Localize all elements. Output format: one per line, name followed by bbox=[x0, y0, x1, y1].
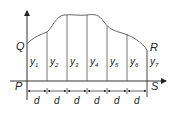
svg-text:y6: y6 bbox=[129, 56, 139, 68]
label-p: P bbox=[15, 80, 23, 92]
svg-text:d: d bbox=[134, 95, 140, 106]
label-r: R bbox=[150, 41, 158, 53]
svg-text:d: d bbox=[54, 95, 60, 106]
area-diagram: Q R P S y1 y2 y3 y4 y5 y6 y7 d d d d d d bbox=[0, 0, 177, 113]
interval-labels: d d d d d d bbox=[34, 95, 140, 106]
ordinate-labels: y1 y2 y3 y4 y5 y6 y7 bbox=[29, 56, 159, 68]
svg-text:y7: y7 bbox=[149, 56, 159, 68]
svg-text:d: d bbox=[114, 95, 120, 106]
label-s: S bbox=[151, 80, 159, 92]
svg-text:d: d bbox=[34, 95, 40, 106]
svg-text:d: d bbox=[74, 95, 80, 106]
svg-text:y4: y4 bbox=[89, 56, 99, 68]
interval-dimensions bbox=[28, 88, 146, 94]
label-q: Q bbox=[16, 40, 25, 52]
svg-text:d: d bbox=[94, 95, 100, 106]
svg-text:y3: y3 bbox=[69, 56, 79, 68]
svg-text:y2: y2 bbox=[49, 56, 59, 68]
svg-text:y5: y5 bbox=[109, 56, 119, 68]
svg-text:y1: y1 bbox=[29, 56, 38, 68]
